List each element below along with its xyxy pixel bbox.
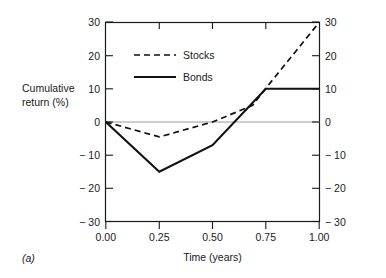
y-tick-label: 30 [88,16,100,28]
y-axis-tick-labels-left: 30 20 10 0 − 10 − 20 − 30 [79,16,100,228]
figure-panel: 30 20 10 0 − 10 − 20 − 30 30 20 10 0 − 1… [0,0,386,278]
x-axis-ticks-top [159,23,265,30]
y-tick-label-right: 10 [325,83,337,95]
chart-legend: Stocks Bonds [134,49,215,83]
y-tick-label: 0 [94,116,100,128]
y-axis-title-line2: return (%) [22,96,69,108]
y-tick-label-right: − 30 [325,216,346,228]
y-axis-ticks-right [312,22,320,222]
y-tick-label: − 30 [79,216,100,228]
x-tick-label: 0.50 [202,231,223,243]
x-axis-ticks [106,222,319,230]
panel-caption: (a) [22,252,35,264]
x-axis-tick-labels: 0.00 0.25 0.50 0.75 1.00 [96,231,330,243]
x-tick-label: 1.00 [309,231,330,243]
legend-label-stocks: Stocks [183,49,215,61]
x-tick-label: 0.00 [96,231,117,243]
y-tick-label-right: 30 [325,16,337,28]
y-tick-label-right: 20 [325,50,337,62]
y-tick-label-right: − 20 [325,182,346,194]
x-axis-title: Time (years) [183,251,242,263]
y-tick-label-right: 0 [325,116,331,128]
y-axis-tick-labels-right: 30 20 10 0 − 10 − 20 − 30 [325,16,346,228]
y-tick-label-right: − 10 [325,149,346,161]
y-tick-label: − 10 [79,149,100,161]
y-tick-label: − 20 [79,182,100,194]
chart-canvas: 30 20 10 0 − 10 − 20 − 30 30 20 10 0 − 1… [0,0,386,278]
legend-label-bonds: Bonds [183,71,213,83]
y-axis-title-line1: Cumulative [22,82,75,94]
x-tick-label: 0.75 [256,231,277,243]
y-axis-title: Cumulative return (%) [22,82,75,108]
x-tick-label: 0.25 [149,231,170,243]
y-tick-label: 10 [88,83,100,95]
y-tick-label: 20 [88,50,100,62]
